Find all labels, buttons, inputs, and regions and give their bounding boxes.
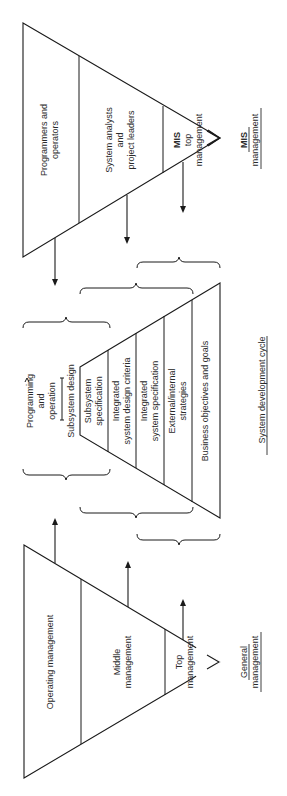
general-caption: General management <box>239 635 260 688</box>
svg-text:system specification: system specification <box>150 361 160 442</box>
dev-cycle-caption: System development cycle <box>257 336 267 443</box>
svg-text:System development cycle: System development cycle <box>257 336 267 443</box>
mis-arrow-2 <box>124 195 130 244</box>
general-arrow-2 <box>125 561 131 607</box>
general-arrow-1 <box>52 518 58 563</box>
lower-braces <box>23 469 220 545</box>
mis-layer-3-label: MIS top management <box>172 113 204 166</box>
svg-text:Subsystem: Subsystem <box>83 379 93 424</box>
mis-caption: MIS management <box>239 113 260 166</box>
general-layer-3-label: Top management <box>174 635 195 688</box>
svg-text:and: and <box>36 393 46 408</box>
general-pyramid: Operating management Middle management T… <box>24 518 261 778</box>
dev-layer-2-label: Integrated system design criteria <box>111 357 132 444</box>
svg-text:management: management <box>123 635 133 688</box>
svg-text:management: management <box>250 113 260 166</box>
svg-text:Integrated: Integrated <box>111 381 121 422</box>
svg-text:External/internal: External/internal <box>167 368 177 433</box>
svg-text:operators: operators <box>50 120 60 159</box>
svg-text:Programmers and: Programmers and <box>39 104 49 176</box>
svg-text:management: management <box>185 635 195 688</box>
svg-text:Top: Top <box>174 655 184 670</box>
brace-upper-1 <box>137 257 220 268</box>
svg-text:project leaders: project leaders <box>126 110 136 170</box>
development-cycle-pyramid: Programming and operation Subsystem desi… <box>25 283 267 518</box>
svg-text:Programming: Programming <box>25 374 35 428</box>
svg-text:Middle: Middle <box>112 649 122 676</box>
dev-layer-1-label: Subsystem specification <box>83 376 104 426</box>
svg-text:system design criteria: system design criteria <box>122 357 132 444</box>
mis-layer-1-label: Programmers and operators <box>39 104 60 176</box>
svg-text:Business objectives and goals: Business objectives and goals <box>200 340 210 461</box>
mis-arrow-3 <box>180 162 186 213</box>
mis-pyramid: Programmers and operators System analyst… <box>23 23 261 286</box>
svg-text:MIS: MIS <box>239 132 249 148</box>
subsystem-design-label: Subsystem design <box>66 364 76 438</box>
svg-text:and: and <box>115 132 125 147</box>
general-layer-2-label: Middle management <box>112 635 133 688</box>
general-apex-gap <box>196 648 218 676</box>
dev-layer-3-label: Integrated system specification <box>139 361 160 442</box>
brace-lower-1 <box>23 469 110 480</box>
programming-operation-label: Programming and operation <box>25 374 57 428</box>
svg-text:Subsystem design: Subsystem design <box>66 364 76 438</box>
svg-text:top: top <box>183 134 193 147</box>
svg-text:Operating management: Operating management <box>45 614 55 709</box>
brace-upper-3 <box>23 317 110 328</box>
programming-bracket <box>60 378 64 420</box>
dev-layer-5-label: Business objectives and goals <box>200 340 210 461</box>
svg-text:MIS: MIS <box>172 132 182 148</box>
mis-arrow-1 <box>52 238 58 286</box>
svg-text:operation: operation <box>47 382 57 420</box>
mis-layer-2-label: System analysts and project leaders <box>104 107 136 173</box>
dev-layer-4-label: External/internal strategies <box>167 368 188 433</box>
svg-text:specification: specification <box>94 376 104 426</box>
brace-lower-2 <box>80 507 193 518</box>
svg-text:Integrated: Integrated <box>139 381 149 422</box>
brace-upper-2 <box>80 283 193 294</box>
svg-text:management: management <box>194 113 204 166</box>
upper-braces <box>23 257 220 328</box>
svg-text:System analysts: System analysts <box>104 107 114 173</box>
svg-text:strategies: strategies <box>178 381 188 421</box>
management-systems-diagram: Programmers and operators System analyst… <box>0 0 287 796</box>
svg-text:management: management <box>250 635 260 688</box>
svg-text:General: General <box>239 646 249 678</box>
general-arrow-3 <box>180 599 186 640</box>
brace-lower-3 <box>137 534 220 545</box>
general-layer-1-label: Operating management <box>45 614 55 709</box>
